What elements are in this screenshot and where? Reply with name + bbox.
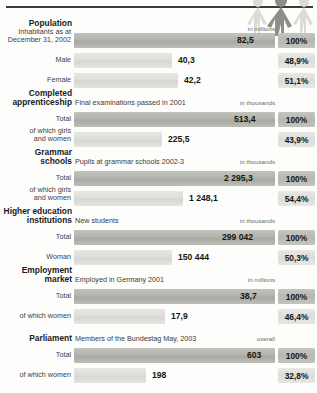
row-label: Female [0, 76, 71, 84]
bar-value: 198 [152, 370, 166, 380]
bar-fill [74, 368, 146, 383]
bar-fill [74, 73, 178, 88]
bar-value: 42,2 [184, 75, 201, 85]
section-caption: Pupils at grammar schools 2002-3 [75, 157, 184, 166]
bar-value: 1 248,1 [189, 193, 218, 203]
section-title-completed-apprenticeship: Completed apprenticeship [0, 89, 72, 108]
bar-value: 603 [247, 350, 261, 360]
bar-value: 513,4 [234, 114, 256, 124]
section-unit: in thousands [240, 158, 275, 165]
table-row: Woman 150 444 50,3% [0, 249, 317, 266]
row-label: Total [0, 292, 71, 300]
section-title-parliament: Parliament [0, 334, 72, 343]
table-row: Female 42,2 51,1% [0, 72, 317, 89]
row-label: Total [0, 233, 71, 241]
bar-value: 299 042 [222, 232, 253, 242]
section-caption: Final examinations passed in 2001 [75, 98, 186, 107]
section-caption: Members of the Bundestag May, 2003 [75, 334, 196, 343]
table-row: of which women 17,9 46,4% [0, 308, 317, 325]
bar-fill [74, 132, 162, 147]
row-label: of which women [0, 371, 71, 379]
percent-badge: 54,4% [278, 191, 315, 206]
percent-badge: 100% [278, 171, 315, 186]
bar-value: 40,3 [178, 55, 195, 65]
table-row: Total 299 042 100% [0, 229, 317, 246]
percent-badge: 46,4% [278, 309, 315, 324]
percent-badge: 100% [278, 112, 315, 127]
row-label: Total [0, 351, 71, 359]
row-label: Male [0, 56, 71, 64]
table-row: of which girls and women 225,5 43,9% [0, 131, 317, 148]
row-label: Total [0, 174, 71, 182]
section-caption: Employed in Germany 2001 [75, 275, 164, 284]
bar-value: 2 295,3 [224, 173, 253, 183]
percent-badge: 48,9% [278, 53, 315, 68]
bar-fill [74, 309, 165, 324]
percent-badge: 43,9% [278, 132, 315, 147]
table-row: of which girls and women 1 248,1 54,4% [0, 190, 317, 207]
section-unit-population: in millions [248, 25, 275, 32]
row-label: Woman [0, 253, 71, 261]
row-label: of which girls and women [0, 186, 71, 202]
table-row: of which women 198 32,8% [0, 367, 317, 384]
section-caption: New students [75, 216, 119, 225]
row-label: Total [0, 115, 71, 123]
bar-value: 150 444 [178, 252, 209, 262]
percent-badge: 32,8% [278, 368, 315, 383]
percent-badge: 50,3% [278, 250, 315, 265]
infographic-root: Population in millions Inhabitants as at… [0, 0, 317, 393]
bar-value: 82,5 [237, 35, 254, 45]
section-unit: in millions [248, 276, 275, 283]
row-label: Inhabitants as at December 31, 2002 [0, 28, 71, 44]
row-label: of which girls and women [0, 127, 71, 143]
row-label: of which women [0, 312, 71, 320]
table-row: Inhabitants as at December 31, 2002 82,5… [0, 32, 317, 49]
table-row: Total 603 100% [0, 347, 317, 364]
bar-value: 225,5 [168, 134, 190, 144]
section-title-grammar-schools: Grammar schools [0, 148, 72, 167]
section-title-higher-education-institutions: Higher education institutions [0, 207, 72, 226]
percent-badge: 100% [278, 230, 315, 245]
bar-fill [74, 53, 172, 68]
section-title-employment-market: Employment market [0, 266, 72, 285]
bar-value: 17,9 [171, 311, 188, 321]
table-row: Total 38,7 100% [0, 288, 317, 305]
section-unit: in thousands [240, 99, 275, 106]
bar-value: 38,7 [240, 291, 257, 301]
bar-fill [74, 250, 172, 265]
percent-badge: 100% [278, 289, 315, 304]
percent-badge: 100% [278, 348, 315, 363]
percent-badge: 100% [278, 33, 315, 48]
bar-fill [74, 191, 183, 206]
section-unit: in thousands [240, 217, 275, 224]
section-unit: overall [257, 335, 275, 342]
table-row: Male 40,3 48,9% [0, 52, 317, 69]
percent-badge: 51,1% [278, 73, 315, 88]
bar-fill [74, 348, 275, 363]
